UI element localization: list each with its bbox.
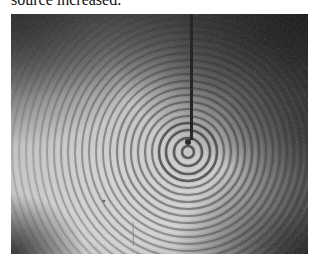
caption-text: source increased.: [11, 0, 121, 9]
film-grain: [11, 14, 308, 254]
ripple-tank-image: [11, 14, 308, 254]
ripple-tank-photo: [11, 14, 308, 254]
